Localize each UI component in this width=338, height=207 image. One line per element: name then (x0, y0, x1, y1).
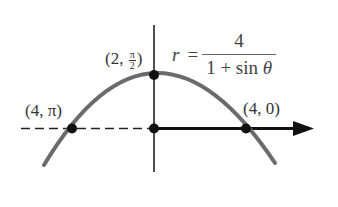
label-top-point: (2, π2) (105, 50, 142, 71)
label-right-point: (4, 0) (243, 100, 280, 117)
frac-denominator: 2 (130, 61, 135, 71)
parabola-curve (44, 73, 275, 165)
label-top-prefix: (2, (105, 49, 128, 68)
equation-denominator: 1 + sin θ (206, 55, 272, 79)
label-top-suffix: ) (137, 49, 143, 68)
point-left (67, 124, 77, 134)
label-left-point: (4, π) (25, 102, 62, 119)
equation-equals: = (187, 44, 198, 66)
point-right (241, 124, 251, 134)
denominator-text: 1 + sin (206, 57, 263, 78)
point-origin (149, 124, 159, 134)
equation: r = 4 1 + sin θ (172, 30, 272, 79)
theta-symbol: θ (263, 57, 272, 78)
point-top (149, 70, 159, 80)
equation-lhs: r (172, 44, 179, 66)
equation-numerator: 4 (202, 30, 276, 55)
equation-fraction: 4 1 + sin θ (206, 30, 272, 79)
pi-over-2-fraction: π2 (129, 50, 136, 71)
arrowhead-icon (293, 121, 314, 136)
